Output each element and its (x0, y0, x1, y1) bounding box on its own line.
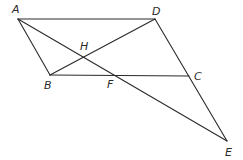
segment-ab (18, 19, 50, 75)
geometry-diagram: A D H B F C E (0, 0, 243, 160)
label-c: C (194, 70, 202, 83)
labels-group: A D H B F C E (11, 3, 232, 159)
label-d: D (152, 5, 160, 18)
label-a: A (11, 3, 20, 16)
label-b: B (44, 79, 52, 92)
label-e: E (225, 146, 232, 159)
segment-de (155, 19, 227, 141)
label-f: F (107, 78, 114, 91)
label-h: H (80, 40, 88, 53)
segment-bc (50, 75, 189, 76)
